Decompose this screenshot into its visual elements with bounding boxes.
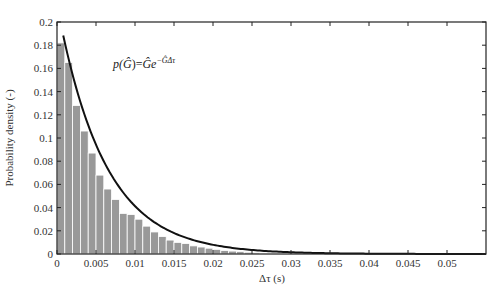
x-axis-label: Δτ (s): [259, 272, 285, 285]
x-tick-label: 0: [54, 257, 60, 269]
x-tick-label: 0.04: [359, 257, 379, 269]
y-tick-label: 0.02: [34, 225, 53, 237]
histogram-bar: [143, 226, 151, 254]
x-tick-label: 0.035: [318, 257, 343, 269]
histogram-bar: [65, 63, 73, 254]
histogram-bar: [205, 248, 213, 254]
y-tick-label: 0.12: [34, 109, 53, 121]
y-tick-label: 0.04: [34, 202, 54, 214]
histogram-bar: [127, 215, 135, 254]
histogram-bar: [197, 247, 205, 254]
y-tick-label: 0.16: [34, 62, 54, 74]
y-tick-label: 0.14: [34, 86, 54, 98]
histogram-bar: [135, 219, 143, 254]
y-tick-label: 0.06: [34, 178, 54, 190]
histogram-bar: [112, 199, 120, 254]
x-tick-label: 0.01: [125, 257, 144, 269]
x-tick-label: 0.025: [240, 257, 265, 269]
histogram-bar: [213, 249, 221, 254]
histogram-bar: [190, 246, 198, 254]
histogram-bar: [80, 131, 88, 254]
histogram-bar: [151, 232, 159, 254]
histogram-bar: [158, 237, 166, 254]
y-axis-label: Probability density (-): [3, 89, 16, 186]
y-tick-label: 0.18: [34, 39, 54, 51]
y-tick-label: 0.08: [34, 155, 54, 167]
histogram-bar: [88, 153, 96, 254]
histogram-bar: [174, 242, 182, 254]
x-tick-label: 0.015: [162, 257, 187, 269]
histogram-bar: [119, 213, 127, 254]
x-tick-label: 0.005: [84, 257, 109, 269]
histogram-chart: 00.0050.010.0150.020.0250.030.0350.040.0…: [0, 0, 499, 297]
histogram-bars: [57, 43, 260, 254]
histogram-bar: [73, 106, 81, 254]
fit-formula-annotation: p(Ĝ)=Ĝe−ĜΔτ: [112, 55, 176, 71]
x-tick-label: 0.02: [203, 257, 222, 269]
histogram-bar: [96, 175, 104, 254]
histogram-bar: [57, 43, 65, 254]
histogram-bar: [104, 189, 112, 254]
x-tick-label: 0.05: [437, 257, 457, 269]
histogram-bar: [166, 240, 174, 254]
histogram-bar: [182, 244, 190, 254]
x-tick-label: 0.045: [396, 257, 421, 269]
y-tick-label: 0.2: [39, 16, 53, 28]
x-tick-label: 0.03: [281, 257, 301, 269]
y-tick-label: 0: [48, 248, 54, 260]
y-tick-label: 0.1: [39, 132, 53, 144]
